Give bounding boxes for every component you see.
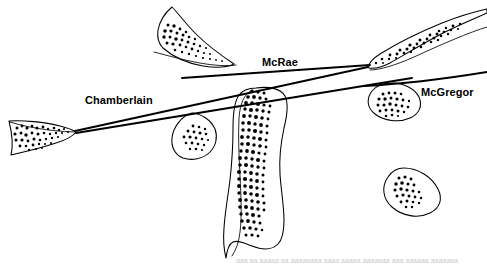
map-label-mcgregor: McGregor (421, 87, 474, 98)
figure-background (0, 0, 487, 265)
map-label-chamberlain: Chamberlain (85, 95, 153, 106)
bottom-cut-off-text-fragment: aaa aa aaaaa aa aaaaaaaa aaaa aaaaa aaaa… (236, 257, 487, 265)
geological-sketch-map (0, 0, 487, 265)
map-label-mcrae: McRae (262, 57, 298, 68)
figure-root: Chamberlain McRae McGregor aaa aa aaaaa … (0, 0, 487, 265)
